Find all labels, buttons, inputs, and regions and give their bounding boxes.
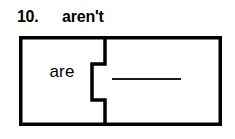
prompt-word: aren't xyxy=(62,6,104,28)
item-header: 10. aren't xyxy=(0,6,235,30)
worksheet-item: 10. aren't are xyxy=(0,0,235,139)
item-number: 10. xyxy=(17,6,38,28)
left-piece-word: are xyxy=(19,61,105,83)
answer-blank[interactable] xyxy=(112,78,181,80)
